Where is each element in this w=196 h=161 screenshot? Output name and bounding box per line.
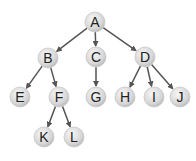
edge-B-E: [26, 66, 42, 88]
node-label: H: [120, 89, 130, 105]
edge-A-B: [57, 28, 87, 51]
node-label: A: [90, 14, 100, 30]
node-label: F: [55, 89, 64, 105]
node-label: D: [140, 49, 150, 65]
node-G: G: [86, 87, 106, 107]
nodes: ABCDEFGHIJKL: [10, 12, 190, 147]
node-label: C: [91, 49, 101, 65]
node-D: D: [135, 47, 155, 67]
edge-D-H: [130, 66, 141, 87]
edges: [26, 28, 172, 127]
edge-B-F: [51, 68, 56, 87]
edge-F-L: [63, 106, 71, 126]
node-label: E: [15, 89, 24, 105]
node-label: J: [177, 89, 184, 105]
node-F: F: [49, 87, 69, 107]
node-E: E: [10, 87, 30, 107]
node-B: B: [38, 48, 58, 68]
node-I: I: [144, 87, 164, 107]
node-label: G: [91, 89, 102, 105]
node-label: I: [152, 89, 156, 105]
node-label: K: [39, 129, 49, 145]
node-label: L: [70, 129, 78, 145]
edge-A-D: [103, 28, 136, 51]
node-A: A: [85, 12, 105, 32]
node-L: L: [64, 127, 84, 147]
edge-D-I: [147, 67, 151, 87]
edge-D-J: [152, 65, 173, 89]
node-H: H: [115, 87, 135, 107]
node-C: C: [86, 47, 106, 67]
tree-diagram: ABCDEFGHIJKL: [0, 0, 196, 161]
edge-F-K: [48, 106, 56, 126]
node-J: J: [170, 87, 190, 107]
node-label: B: [43, 50, 52, 66]
node-K: K: [34, 127, 54, 147]
